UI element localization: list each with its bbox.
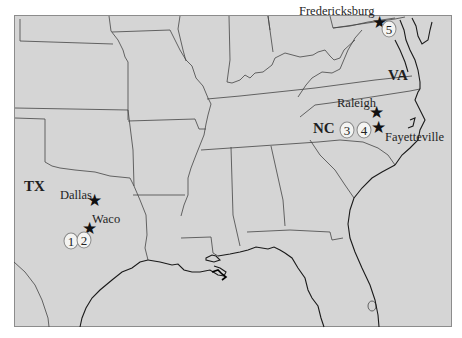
state-label-tx: TX — [24, 179, 45, 194]
star-icon-fayetteville: ★ — [371, 119, 386, 136]
map-canvas — [0, 0, 462, 338]
numbered-marker-2: 2 — [77, 232, 92, 249]
numbered-marker-5: 5 — [382, 21, 397, 38]
city-label-fredericksburg: Fredericksburg — [299, 5, 374, 18]
map-frame — [15, 16, 452, 327]
numbered-marker-3: 3 — [340, 122, 355, 139]
numbered-marker-4: 4 — [357, 122, 372, 139]
star-icon-dallas: ★ — [87, 192, 102, 209]
city-label-fayetteville: Fayetteville — [385, 131, 444, 144]
state-label-va: VA — [388, 68, 408, 83]
state-label-nc: NC — [313, 121, 335, 136]
